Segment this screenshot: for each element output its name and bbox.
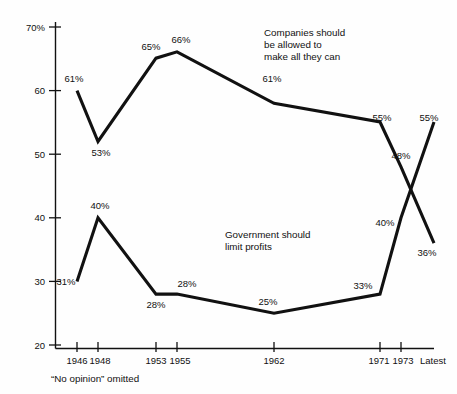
- point-label-government-1971: 33%: [353, 280, 373, 291]
- point-label-government-1955: 28%: [177, 278, 197, 289]
- annotation-companies-line-3: make all they can: [264, 51, 340, 62]
- point-label-government-1962: 25%: [258, 296, 278, 307]
- annotation-government-line-1: Government should: [225, 229, 311, 240]
- x-tick-label-1973: 1973: [392, 355, 413, 366]
- x-tick-label-latest: Latest: [420, 355, 446, 366]
- y-tick-label-30: 30: [34, 276, 45, 287]
- point-label-government-latest: 55%: [419, 112, 439, 123]
- point-label-companies-1946: 61%: [64, 73, 84, 84]
- y-tick-label-20: 20: [34, 340, 45, 351]
- x-tick-label-1948: 1948: [89, 355, 110, 366]
- point-label-companies-1962: 61%: [262, 73, 282, 84]
- point-label-companies-1953: 65%: [141, 41, 161, 52]
- point-label-government-1948: 40%: [90, 200, 110, 211]
- point-label-companies-latest: 36%: [417, 247, 437, 258]
- y-tick-label-70: 70%: [26, 22, 46, 33]
- x-tick-label-1962: 1962: [263, 355, 284, 366]
- y-tick-label-50: 50: [34, 149, 45, 160]
- y-tick-label-60: 60: [34, 85, 45, 96]
- point-label-companies-1973: 48%: [391, 150, 411, 161]
- x-tick-label-1971: 1971: [368, 355, 389, 366]
- x-tick-label-1946: 1946: [66, 355, 87, 366]
- point-label-government-1953: 28%: [146, 299, 166, 310]
- point-label-government-1946: 31%: [56, 276, 76, 287]
- x-tick-label-1953: 1953: [145, 355, 166, 366]
- chart-page: 70% 60 50 40 30 20 1946 1948 1953 1955 1…: [0, 0, 457, 394]
- x-tick-label-1955: 1955: [169, 355, 190, 366]
- series-line-companies: [77, 52, 434, 243]
- point-label-companies-1971: 55%: [372, 112, 392, 123]
- point-label-companies-1955: 66%: [171, 34, 191, 45]
- annotation-companies-line-2: be allowed to: [264, 39, 322, 50]
- footnote: “No opinion” omitted: [51, 373, 139, 384]
- point-label-companies-1948: 53%: [91, 147, 111, 158]
- line-chart: 70% 60 50 40 30 20 1946 1948 1953 1955 1…: [0, 0, 457, 394]
- point-label-government-1973: 40%: [375, 217, 395, 228]
- y-tick-label-40: 40: [34, 212, 45, 223]
- annotation-companies-line-1: Companies should: [264, 27, 345, 38]
- annotation-government-line-2: limit profits: [225, 241, 272, 252]
